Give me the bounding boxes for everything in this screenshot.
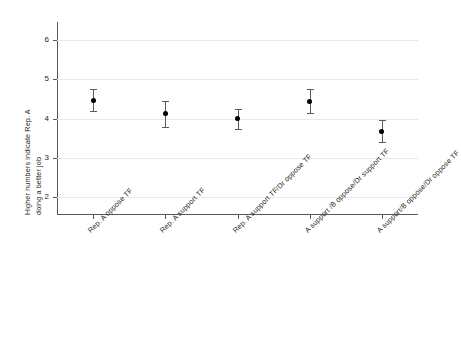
y-tick-label: 4 bbox=[27, 115, 49, 123]
gridline bbox=[57, 40, 418, 41]
error-bar-cap-upper bbox=[379, 120, 386, 121]
y-axis-title-line-2: doing a better job bbox=[34, 157, 43, 215]
y-tick-mark bbox=[53, 158, 57, 159]
gridline bbox=[57, 79, 418, 80]
error-bar-cap-lower bbox=[235, 129, 242, 130]
error-bar-cap-lower bbox=[307, 113, 314, 114]
y-tick-label: 3 bbox=[27, 154, 49, 162]
gridline bbox=[57, 158, 418, 159]
y-tick-label: 2 bbox=[27, 193, 49, 201]
y-tick-mark bbox=[53, 40, 57, 41]
data-point-marker bbox=[163, 111, 168, 116]
gridline bbox=[57, 197, 418, 198]
error-bar-cap-lower bbox=[162, 127, 169, 128]
error-bar-cap-upper bbox=[307, 89, 314, 90]
y-tick-mark bbox=[53, 197, 57, 198]
data-point-marker bbox=[379, 129, 384, 134]
error-bar-cap-upper bbox=[235, 109, 242, 110]
data-point-marker bbox=[91, 98, 96, 103]
data-point-marker bbox=[235, 116, 240, 121]
plot-area bbox=[57, 22, 418, 215]
y-tick-mark bbox=[53, 79, 57, 80]
error-bar-cap-lower bbox=[379, 142, 386, 143]
error-bar-cap-upper bbox=[162, 101, 169, 102]
error-bar-cap-upper bbox=[90, 89, 97, 90]
x-tick-mark bbox=[238, 215, 239, 219]
data-point-marker bbox=[307, 99, 312, 104]
y-tick-mark bbox=[53, 119, 57, 120]
error-bar-cap-lower bbox=[90, 111, 97, 112]
y-tick-label: 5 bbox=[27, 75, 49, 83]
x-tick-mark bbox=[310, 215, 311, 219]
y-tick-label: 6 bbox=[27, 36, 49, 44]
x-tick-mark bbox=[382, 215, 383, 219]
